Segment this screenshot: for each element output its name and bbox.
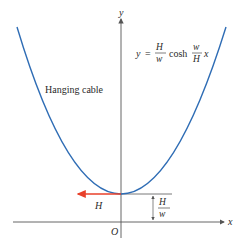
tension-label: H	[94, 200, 103, 211]
y-axis-label: y	[118, 7, 124, 18]
svg-text:=: =	[145, 48, 151, 59]
origin-label: O	[111, 226, 118, 237]
hanging-cable-diagram: y x O Hanging cable H H w y = H w cosh w…	[0, 0, 241, 243]
svg-text:y: y	[135, 48, 141, 59]
svg-text:cosh: cosh	[169, 48, 187, 59]
svg-text:H: H	[158, 197, 167, 207]
x-axis-label: x	[227, 216, 233, 227]
svg-text:H: H	[192, 54, 201, 64]
height-label: H w	[158, 197, 170, 219]
catenary-equation: y = H w cosh w H x	[135, 42, 209, 64]
catenary-curve	[17, 27, 226, 194]
hanging-cable-label: Hanging cable	[45, 84, 104, 95]
svg-text:w: w	[193, 42, 200, 52]
svg-text:H: H	[155, 42, 164, 52]
svg-text:x: x	[203, 48, 209, 59]
svg-text:w: w	[156, 54, 163, 64]
svg-text:w: w	[159, 209, 166, 219]
